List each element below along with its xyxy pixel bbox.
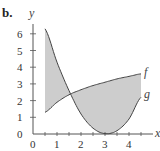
shaded-area (45, 29, 141, 134)
x-axis-label: x (154, 126, 160, 140)
y-axis-label: y (28, 6, 35, 20)
y-tick-label: 1 (17, 111, 23, 123)
f-curve-label: f (144, 65, 149, 79)
labels: b. y x f g (2, 5, 160, 140)
g-curve-label: g (144, 87, 150, 101)
shaded-region (45, 29, 141, 134)
y-tick-label: 3 (17, 78, 23, 90)
y-tick-label: 4 (17, 61, 23, 73)
area-between-curves-chart: 012340123456 b. y x f g (0, 0, 160, 151)
y-tick-label: 6 (17, 28, 23, 40)
y-tick-label: 0 (17, 128, 23, 140)
x-tick-label: 3 (102, 138, 108, 150)
y-tick-label: 2 (17, 95, 23, 107)
y-tick-label: 5 (17, 45, 23, 57)
x-tick-label: 1 (54, 138, 60, 150)
part-label: b. (2, 5, 12, 20)
x-tick-label: 4 (126, 138, 132, 150)
x-tick-label: 2 (78, 138, 84, 150)
x-tick-label: 0 (30, 138, 36, 150)
